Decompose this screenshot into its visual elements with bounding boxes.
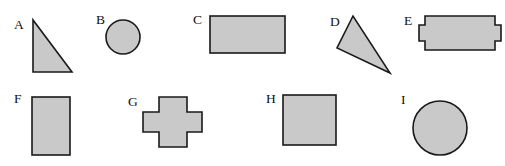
shape-group-d[interactable]: D [330, 14, 390, 73]
shape-group-g[interactable]: G [128, 94, 202, 147]
shape-label-g: G [128, 94, 138, 109]
shape-h-square[interactable] [283, 95, 336, 145]
shape-label-i: I [401, 92, 406, 107]
shapes-figure: A B C D E F G [0, 0, 505, 166]
shape-i-circle[interactable] [413, 101, 467, 155]
shape-label-h: H [266, 91, 276, 106]
shape-a-right-triangle[interactable] [33, 20, 72, 72]
shape-b-circle[interactable] [106, 20, 140, 54]
shape-label-f: F [14, 91, 22, 106]
shape-label-d: D [330, 14, 340, 29]
shape-e-rectangle-with-side-tabs[interactable] [419, 16, 501, 50]
shape-f-vertical-rectangle[interactable] [32, 97, 70, 155]
shape-group-h[interactable]: H [266, 91, 336, 145]
shape-d-scalene-triangle[interactable] [337, 16, 390, 73]
shape-group-b[interactable]: B [96, 12, 140, 54]
shape-label-e: E [404, 13, 412, 28]
shape-label-a: A [14, 17, 24, 32]
shape-group-f[interactable]: F [14, 91, 70, 155]
shape-group-a[interactable]: A [14, 17, 72, 72]
shape-label-b: B [96, 12, 105, 27]
shapes-canvas: A B C D E F G [0, 0, 505, 166]
shape-group-e[interactable]: E [404, 13, 501, 50]
shape-g-cross[interactable] [143, 97, 202, 147]
shape-group-c[interactable]: C [193, 12, 285, 53]
shape-group-i[interactable]: I [401, 92, 467, 155]
shape-c-rectangle[interactable] [210, 16, 285, 53]
shape-label-c: C [193, 12, 202, 27]
